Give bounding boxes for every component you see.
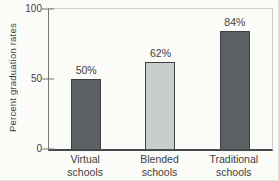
bar-traditional-schools bbox=[220, 31, 250, 149]
bar-blended-schools bbox=[145, 62, 175, 149]
bar-slot-virtual: 50% bbox=[49, 9, 123, 149]
x-label-virtual-schools: Virtual schools bbox=[48, 153, 122, 178]
x-label-blended-line2: schools bbox=[122, 166, 196, 179]
x-label-traditional-line2: schools bbox=[197, 166, 271, 179]
y-tick-mark-0 bbox=[42, 149, 54, 150]
y-tick-mark-100 bbox=[42, 9, 54, 10]
bars-container: 50% 62% 84% bbox=[49, 9, 272, 149]
y-tick-label-100: 100 bbox=[0, 3, 42, 14]
bar-chart-figure: Percent graduation rates 100 50 0 50% 62… bbox=[0, 0, 279, 181]
x-label-traditional-line1: Traditional bbox=[197, 153, 271, 166]
bar-slot-blended: 62% bbox=[123, 9, 197, 149]
bar-virtual-schools bbox=[71, 79, 101, 149]
bar-value-label-blended: 62% bbox=[150, 47, 171, 59]
x-label-traditional-schools: Traditional schools bbox=[197, 153, 271, 178]
bar-slot-traditional: 84% bbox=[198, 9, 272, 149]
bar-value-label-traditional: 84% bbox=[224, 16, 245, 28]
y-tick-mark-50 bbox=[42, 79, 54, 80]
y-tick-label-50: 50 bbox=[0, 73, 42, 84]
plot-area: 50% 62% 84% bbox=[48, 8, 273, 151]
x-label-virtual-line2: schools bbox=[48, 166, 122, 179]
x-label-blended-schools: Blended schools bbox=[122, 153, 196, 178]
x-label-virtual-line1: Virtual bbox=[48, 153, 122, 166]
x-axis-category-labels: Virtual schools Blended schools Traditio… bbox=[48, 153, 271, 178]
y-tick-label-0: 0 bbox=[0, 143, 42, 154]
y-axis-tick-labels: 100 50 0 bbox=[0, 8, 42, 148]
x-label-blended-line1: Blended bbox=[122, 153, 196, 166]
bar-value-label-virtual: 50% bbox=[76, 64, 97, 76]
